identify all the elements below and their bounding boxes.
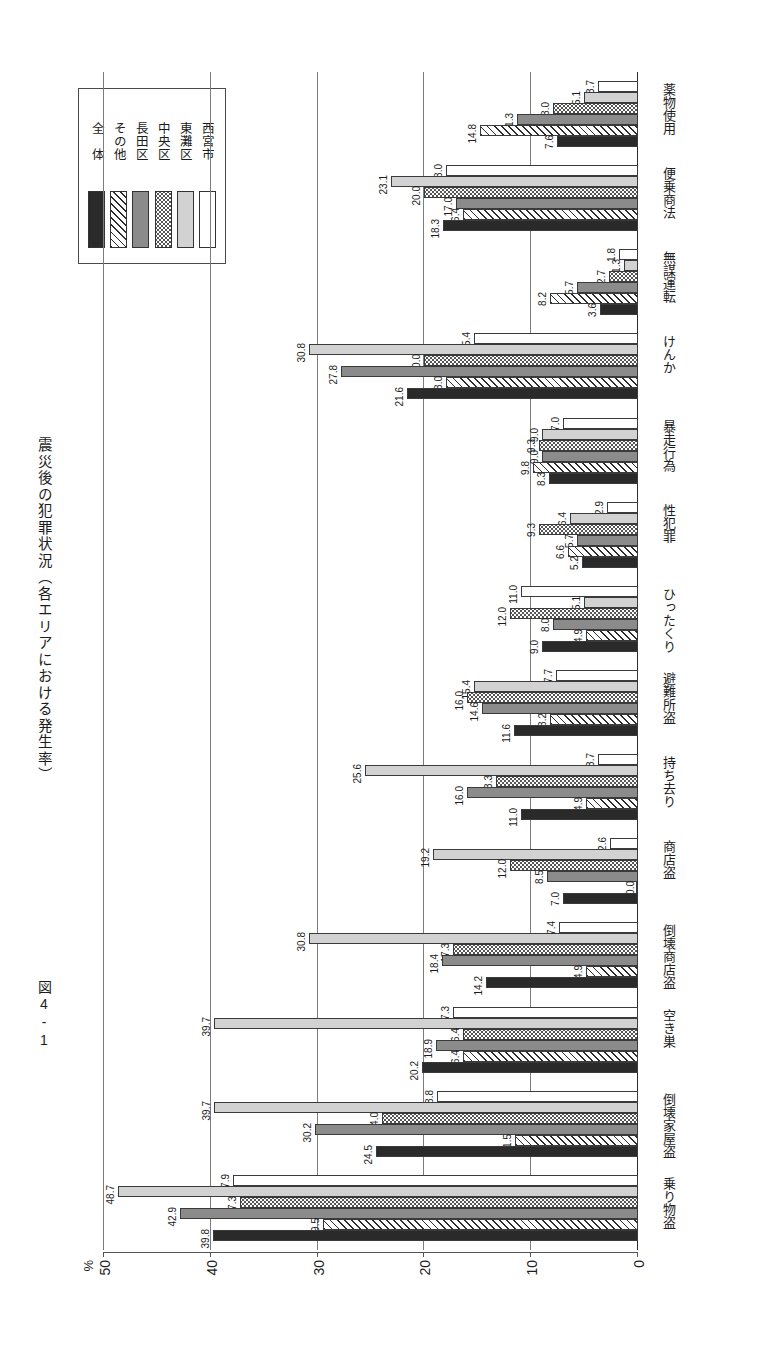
category-label: 無謀運転	[659, 251, 678, 303]
value-axis: % 50403020100	[104, 1252, 638, 1312]
bar	[486, 977, 638, 988]
bar	[542, 429, 638, 440]
axis-tick	[530, 1252, 531, 1257]
bar	[598, 81, 638, 92]
bar	[553, 103, 638, 114]
plot-area: 3.75.18.011.314.87.6薬物使用18.023.120.017.0…	[104, 72, 638, 1250]
bar	[586, 798, 638, 809]
bar	[557, 136, 638, 147]
category-label: 倒壊家屋盗	[659, 1093, 678, 1158]
bar	[474, 333, 638, 344]
bar-value-label: 8.2	[537, 292, 548, 306]
bar-value-label: 39.7	[201, 1101, 212, 1120]
bar-value-label: 5.2	[569, 556, 580, 570]
bar-group: 17.339.716.418.916.420.2空き巣	[104, 998, 638, 1082]
bar	[443, 220, 638, 231]
bar	[521, 809, 638, 820]
bar-value-label: 18.3	[430, 219, 441, 238]
bar	[424, 355, 638, 366]
bar-value-label: 14.8	[467, 124, 478, 143]
bar-value-label: 7.0	[550, 892, 561, 906]
bar-value-label: 14.2	[473, 976, 484, 995]
axis-tick	[317, 1252, 318, 1257]
bar-value-label: 8.3	[536, 472, 547, 486]
bar-value-label: 9.8	[520, 461, 531, 475]
bar	[550, 714, 638, 725]
bar	[365, 765, 638, 776]
bar-value-label: 20.0	[411, 186, 422, 205]
bar-group: 37.948.737.342.929.539.8乗り物盗	[104, 1166, 638, 1250]
bar-group: 1.81.32.75.78.23.6無謀運転	[104, 240, 638, 324]
bar	[309, 933, 638, 944]
bar	[180, 1208, 638, 1219]
bar-value-label: 12.0	[497, 607, 508, 626]
bar	[598, 754, 638, 765]
bar	[323, 1219, 638, 1230]
bar	[424, 187, 638, 198]
bar-value-label: 9.3	[526, 523, 537, 537]
axis-tick	[637, 1252, 638, 1257]
bar-value-label: 18.4	[429, 954, 440, 973]
bar-value-label: 25.6	[352, 764, 363, 783]
bar-value-label: 30.8	[296, 343, 307, 362]
category-label: 倒壊商店盗	[659, 924, 678, 989]
figure-root: 図4-1 震災後の犯罪状況（各エリアにおける発生率） 西宮市東灘区中央区長田区そ…	[0, 0, 782, 1358]
bar-value-label: 11.0	[508, 585, 519, 604]
bar-value-label: 48.7	[105, 1185, 116, 1204]
bar-value-label: 24.5	[363, 1145, 374, 1164]
bar	[607, 502, 638, 513]
bar	[542, 641, 638, 652]
bar	[463, 1029, 638, 1040]
bar	[433, 849, 638, 860]
bar	[315, 1124, 638, 1135]
axis-tick-label: 20	[417, 1260, 433, 1276]
bar-group: 18.839.724.030.211.524.5倒壊家屋盗	[104, 1082, 638, 1166]
bar-value-label: 21.6	[394, 387, 405, 406]
bar	[474, 681, 638, 692]
bar	[624, 260, 638, 271]
bar	[586, 966, 638, 977]
bar	[517, 114, 638, 125]
axis-tick-label: 30	[311, 1260, 327, 1276]
bar	[446, 377, 638, 388]
bar	[515, 1135, 638, 1146]
bar	[533, 462, 638, 473]
bar	[442, 955, 639, 966]
category-label: 薬物使用	[659, 83, 678, 135]
bar-group: 15.430.820.027.818.021.6けんか	[104, 324, 638, 408]
bar	[482, 703, 638, 714]
bar-group: 3.725.613.316.04.911.0持ち去り	[104, 745, 638, 829]
bar	[233, 1175, 638, 1186]
bar	[240, 1197, 638, 1208]
bar	[391, 176, 638, 187]
bar	[453, 944, 638, 955]
bar-group: 7.430.817.318.44.914.2倒壊商店盗	[104, 913, 638, 997]
axis-rule	[104, 1252, 638, 1253]
bar	[549, 473, 638, 484]
axis-tick-label: 10	[524, 1260, 540, 1276]
bar-value-label: 19.2	[420, 848, 431, 867]
bar	[214, 1018, 638, 1029]
bar-value-label: 8.0	[540, 618, 551, 632]
bar	[456, 198, 638, 209]
bar	[510, 860, 638, 871]
bar	[407, 388, 638, 399]
axis-tick-label: 40	[204, 1260, 220, 1276]
bar-value-label: 6.6	[555, 545, 566, 559]
category-label: 乗り物盗	[659, 1177, 678, 1229]
category-label: 便乗商法	[659, 167, 678, 219]
bar-value-label: 11.6	[501, 724, 512, 743]
bar-group: 7.09.09.39.09.88.3暴走行為	[104, 409, 638, 493]
bar-value-label: 23.1	[378, 175, 389, 194]
bar	[570, 513, 638, 524]
bar	[553, 619, 638, 630]
axis-tick-label: 0	[631, 1260, 647, 1268]
bar-group: 2.96.49.35.76.65.2性犯罪	[104, 493, 638, 577]
bar-value-label: 9.0	[529, 640, 540, 654]
bar-value-label: 11.0	[508, 808, 519, 827]
bar	[309, 344, 638, 355]
bar-value-label: 39.8	[200, 1229, 211, 1248]
title-column: 図4-1 震災後の犯罪状況（各エリアにおける発生率）	[8, 0, 62, 1358]
category-label: 避難所盗	[659, 672, 678, 724]
bar	[539, 440, 638, 451]
